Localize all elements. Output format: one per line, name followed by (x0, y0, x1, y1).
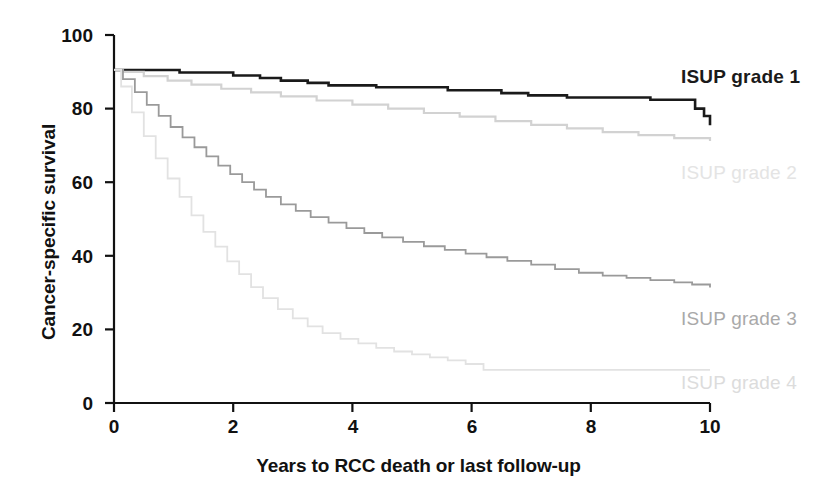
series-label-isup-grade-2: ISUP grade 2 (681, 162, 797, 184)
xtick-label-10: 10 (685, 416, 735, 438)
series-label-isup-grade-3: ISUP grade 3 (681, 308, 797, 330)
ytick-label-0: 0 (23, 393, 93, 415)
xtick-label-8: 8 (566, 416, 616, 438)
survival-chart-figure: 100 80 60 40 20 0 0 2 4 6 8 10 Years to … (0, 0, 837, 491)
xtick-label-0: 0 (89, 416, 139, 438)
series-line-isup-grade-3 (114, 70, 710, 287)
y-axis-title: Cancer-specific survival (38, 82, 60, 382)
series-label-isup-grade-1: ISUP grade 1 (681, 66, 800, 88)
xtick-label-4: 4 (328, 416, 378, 438)
x-axis-title: Years to RCC death or last follow-up (0, 455, 837, 477)
ytick-label-100: 100 (23, 25, 93, 47)
axis-lines (105, 35, 710, 412)
series-line-isup-grade-2 (114, 70, 710, 141)
xtick-label-6: 6 (447, 416, 497, 438)
series-lines (114, 70, 710, 370)
series-line-isup-grade-1 (114, 70, 710, 125)
series-label-isup-grade-4: ISUP grade 4 (681, 372, 797, 394)
series-line-isup-grade-4 (114, 70, 710, 370)
xtick-label-2: 2 (208, 416, 258, 438)
